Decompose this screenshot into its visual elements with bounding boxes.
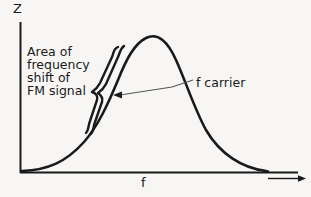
axis-label-f: f (141, 176, 146, 189)
annotation-f-carrier: f carrier (196, 76, 245, 89)
leader-line (120, 80, 193, 95)
diagram-canvas (0, 0, 311, 197)
right-arrow-icon (298, 175, 306, 182)
leader-arrow-icon (113, 92, 122, 99)
annotation-frequency-shift-area: Area of frequency shift of FM signal (27, 45, 90, 97)
axis-label-z: Z (13, 2, 22, 15)
fm-signal-spectrum-figure: Z f Area of frequency shift of FM signal… (0, 0, 311, 197)
